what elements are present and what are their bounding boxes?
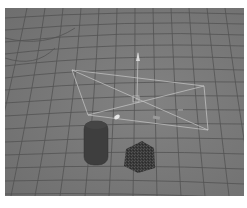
scene-canvas[interactable] [5,8,244,196]
gizmo-tile [178,109,183,111]
cylinder-object[interactable] [84,121,108,165]
3d-viewport[interactable] [5,8,244,196]
